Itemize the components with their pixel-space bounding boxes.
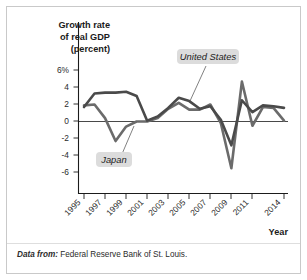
source-prefix: Data from:: [17, 250, 58, 259]
annotation-united-states: United States: [177, 49, 239, 64]
y-tick-label-6: 6%: [57, 65, 70, 75]
japan-label: Japan: [100, 154, 127, 165]
gdp-growth-line-chart: Growth rate of real GDP (percent) 6% 4 2…: [0, 0, 307, 280]
x-tick-label-1997: 1997: [83, 197, 103, 217]
source-divider: [7, 243, 300, 244]
x-tick-marks: [84, 194, 284, 200]
x-axis-title: Year: [269, 227, 289, 237]
x-tick-label-2014: 2014: [262, 197, 282, 217]
x-tick-label-2011: 2011: [231, 197, 251, 217]
united-states-leader-line: [190, 66, 206, 101]
y-tick-label-0: 0: [64, 116, 69, 126]
y-tick-label-neg4: -4: [62, 150, 70, 160]
y-axis-title-line-3: (percent): [71, 44, 110, 54]
y-tick-label-2: 2: [64, 99, 69, 109]
chart-canvas: Growth rate of real GDP (percent) 6% 4 2…: [0, 0, 307, 280]
x-tick-label-1995: 1995: [62, 197, 82, 217]
x-tick-label-2009: 2009: [209, 197, 229, 217]
x-tick-labels: 1995 1997 1999 2001 2003 2005 2007 2009 …: [62, 197, 282, 217]
source-text: Federal Reserve Bank of St. Louis.: [60, 250, 187, 259]
y-tick-marks: [74, 70, 79, 172]
source-note: Data from: Federal Reserve Bank of St. L…: [17, 250, 289, 259]
y-tick-label-neg2: -2: [62, 133, 70, 143]
x-tick-label-1999: 1999: [104, 197, 124, 217]
x-tick-label-2001: 2001: [125, 197, 145, 217]
x-tick-label-2005: 2005: [167, 197, 187, 217]
united-states-label: United States: [180, 51, 237, 62]
y-tick-label-neg6: -6: [62, 167, 70, 177]
y-axis-title-line-1: Growth rate: [58, 20, 110, 30]
y-tick-label-4: 4: [64, 82, 69, 92]
y-axis-title-line-2: of real GDP: [60, 32, 110, 42]
x-tick-label-2003: 2003: [146, 197, 166, 217]
chart-figure: Growth rate of real GDP (percent) 6% 4 2…: [0, 0, 307, 280]
annotation-japan: Japan: [96, 152, 132, 167]
x-tick-label-2007: 2007: [188, 197, 208, 217]
